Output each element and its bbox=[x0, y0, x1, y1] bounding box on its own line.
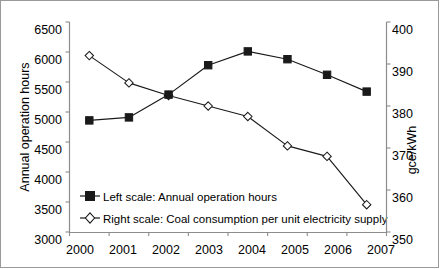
chart-container: Annual operation hours gce/kWh 3000 3500… bbox=[0, 0, 440, 269]
legend-marker-filled-square-icon bbox=[80, 192, 100, 201]
legend-marker-open-diamond-icon bbox=[80, 213, 100, 223]
plot-area bbox=[0, 0, 440, 269]
series-line-operation-hours bbox=[89, 51, 366, 120]
